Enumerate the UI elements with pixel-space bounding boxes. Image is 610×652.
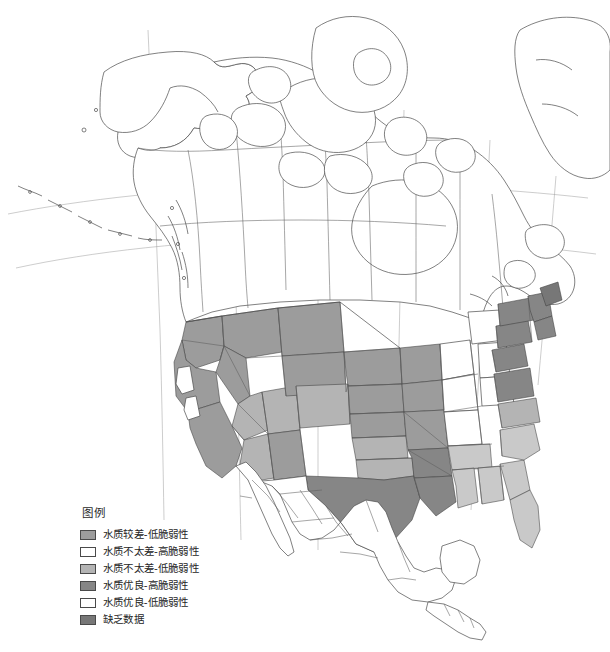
map-legend: 图例 水质较差-低脆弱性 水质不太差-高脆弱性 水质不太差-低脆弱性 水质优良-… xyxy=(80,506,230,628)
legend-title: 图例 xyxy=(82,506,230,520)
legend-item: 缺乏数据 xyxy=(80,611,230,628)
legend-item: 水质较差-低脆弱性 xyxy=(80,526,230,543)
legend-label: 水质较差-低脆弱性 xyxy=(103,528,189,541)
legend-swatch-fair-low-vulnerability xyxy=(80,564,96,574)
legend-label: 缺乏数据 xyxy=(103,613,144,626)
legend-swatch-poor-low-vulnerability xyxy=(80,530,96,540)
legend-label: 水质优良-低脆弱性 xyxy=(103,596,189,609)
map-figure: .bnd { fill:none; stroke:#4a4a4a; stroke… xyxy=(0,0,610,652)
legend-swatch-no-data xyxy=(80,615,96,625)
legend-swatch-good-low-vulnerability xyxy=(80,598,96,608)
legend-swatch-fair-high-vulnerability xyxy=(80,547,96,557)
legend-swatch-good-high-vulnerability xyxy=(80,581,96,591)
legend-item: 水质不太差-高脆弱性 xyxy=(80,543,230,560)
legend-item: 水质不太差-低脆弱性 xyxy=(80,560,230,577)
legend-label: 水质不太差-低脆弱性 xyxy=(103,562,199,575)
legend-item: 水质优良-低脆弱性 xyxy=(80,594,230,611)
legend-label: 水质优良-高脆弱性 xyxy=(103,579,189,592)
legend-item: 水质优良-高脆弱性 xyxy=(80,577,230,594)
legend-label: 水质不太差-高脆弱性 xyxy=(103,545,199,558)
